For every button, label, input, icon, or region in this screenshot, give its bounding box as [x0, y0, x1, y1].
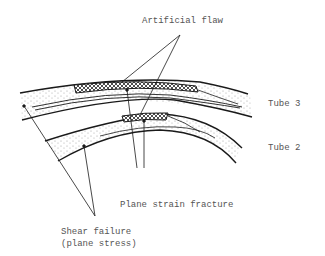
- label-artificial-flaw: Artificial flaw: [142, 16, 223, 27]
- label-plane-strain-fracture: Plane strain fracture: [120, 200, 233, 211]
- label-shear-failure: Shear failure: [61, 227, 131, 238]
- label-plane-stress: (plane stress): [61, 239, 137, 250]
- label-tube-2: Tube 2: [268, 143, 300, 154]
- label-tube-3: Tube 3: [268, 99, 300, 110]
- tube-failure-diagram: [0, 0, 325, 256]
